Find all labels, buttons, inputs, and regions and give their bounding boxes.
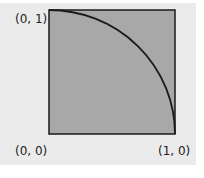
label-point-0-0: (0, 0) (15, 144, 47, 158)
label-point-1-0: (1, 0) (158, 144, 190, 158)
label-point-0-1: (0, 1) (15, 12, 47, 26)
unit-square (49, 10, 175, 134)
